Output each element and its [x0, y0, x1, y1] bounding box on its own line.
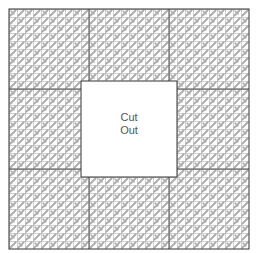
- cutout-label-line2: Out: [81, 124, 177, 137]
- cutout-label-line1: Cut: [81, 111, 177, 124]
